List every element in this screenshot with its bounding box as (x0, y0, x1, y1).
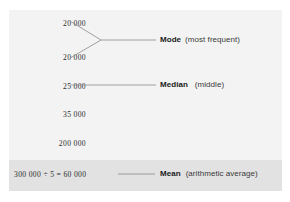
median-label: Median(middle) (160, 80, 224, 89)
median-term: Median (160, 80, 188, 89)
value-item: 25 000 (0, 82, 86, 91)
mean-expression: 300 000 ÷ 5 = 60 000 (14, 170, 86, 179)
mean-term: Mean (160, 169, 181, 178)
value-item: 20 000 (0, 53, 86, 62)
value-item: 20 000 (0, 19, 86, 28)
value-item: 200 000 (0, 139, 86, 148)
statistics-figure: 20 000 20 000 25 000 35 000 200 000 300 … (0, 0, 290, 202)
mean-label: Mean(arithmetic average) (160, 169, 258, 178)
value-item: 35 000 (0, 110, 86, 119)
mean-note: (arithmetic average) (186, 169, 258, 178)
mode-term: Mode (160, 35, 181, 44)
mode-note: (most frequent) (185, 35, 240, 44)
median-note: (middle) (195, 80, 224, 89)
mode-label: Mode(most frequent) (160, 35, 240, 44)
